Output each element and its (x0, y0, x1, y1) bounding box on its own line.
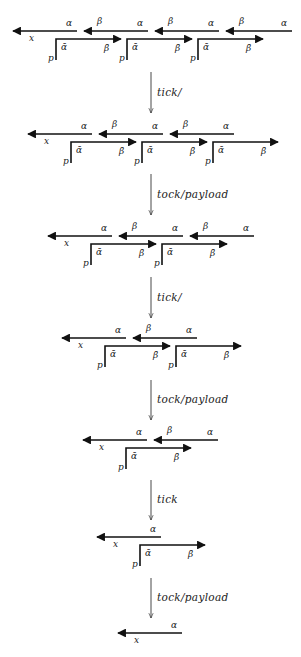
alpha-bar-label: ᾱ (145, 548, 151, 558)
alpha-label: α (137, 18, 143, 28)
beta-label: β (202, 221, 208, 231)
alpha-label: α (172, 223, 178, 233)
beta-label: β (167, 16, 173, 26)
transition-arrow: tick/ (151, 72, 183, 113)
x-label: x (78, 340, 83, 350)
alpha-label: α (152, 121, 158, 131)
transition-arrow: tick/ (151, 277, 183, 318)
x-label: x (99, 442, 104, 452)
configuration-row: αx (118, 620, 182, 645)
transition-label: tick (157, 493, 178, 505)
alpha-bar-label: ᾱ (167, 247, 173, 257)
alpha-label: α (81, 121, 87, 131)
beta-label: β (166, 425, 172, 435)
alpha-label: α (208, 18, 214, 28)
transition-arrow: tock/payload (151, 380, 229, 420)
x-label: x (64, 238, 69, 248)
beta-bar-label: β̄ (245, 43, 251, 53)
transition-label: tock/payload (157, 393, 229, 405)
p-label: p (48, 53, 54, 63)
configuration-row: αxαβαβpᾱβ̄pᾱβ̄ (48, 221, 254, 268)
alpha-label: α (115, 325, 121, 335)
alpha-bar-label: ᾱ (96, 247, 102, 257)
configuration-row: αxαβpᾱβ̄pᾱβ̄ (62, 323, 241, 370)
alpha-bar-label: ᾱ (76, 145, 82, 155)
p-label: p (154, 258, 160, 268)
x-label: x (29, 33, 34, 43)
beta-bar-label: β̄ (174, 43, 180, 53)
alpha-label: α (223, 121, 229, 131)
alpha-label: α (136, 427, 142, 437)
p-label: p (118, 462, 124, 472)
beta-label: β (96, 16, 102, 26)
alpha-bar-label: ᾱ (147, 145, 153, 155)
alpha-label: α (281, 18, 287, 28)
beta-label: β (131, 221, 137, 231)
transition-label: tick/ (157, 86, 183, 98)
alpha-label: α (171, 620, 177, 630)
p-label: p (132, 559, 138, 569)
beta-label: β (111, 119, 117, 129)
configuration-row: αxαβαβpᾱβ̄pᾱβ̄pᾱβ̄ (28, 119, 278, 166)
alpha-label: α (150, 524, 156, 534)
beta-bar-label: β̄ (189, 146, 195, 156)
beta-bar-label: β̄ (223, 350, 229, 360)
alpha-label: α (101, 223, 107, 233)
transition-arrow: tock/payload (151, 174, 229, 215)
transition-label: tock/payload (157, 591, 229, 603)
transition-arrow: tick (151, 480, 178, 520)
state-transition-diagram: αxαβαβαβpᾱβ̄pᾱβ̄pᾱβ̄αxαβαβpᾱβ̄pᾱβ̄pᾱβ̄αx… (0, 0, 301, 657)
alpha-bar-label: ᾱ (131, 451, 137, 461)
alpha-bar-label: ᾱ (110, 349, 116, 359)
x-label: x (113, 539, 118, 549)
p-label: p (134, 156, 140, 166)
alpha-bar-label: ᾱ (132, 42, 138, 52)
beta-bar-label: β̄ (152, 350, 158, 360)
p-label: p (83, 258, 89, 268)
p-label: p (190, 53, 196, 63)
alpha-bar-label: ᾱ (203, 42, 209, 52)
beta-bar-label: β̄ (173, 452, 179, 462)
alpha-label: α (207, 427, 213, 437)
beta-bar-label: β̄ (103, 43, 109, 53)
transition-label: tick/ (157, 291, 183, 303)
beta-bar-label: β̄ (138, 248, 144, 258)
beta-bar-label: β̄ (118, 146, 124, 156)
beta-bar-label: β̄ (260, 146, 266, 156)
beta-label: β (238, 16, 244, 26)
alpha-bar-label: ᾱ (218, 145, 224, 155)
alpha-bar-label: ᾱ (61, 42, 67, 52)
x-label: x (134, 635, 139, 645)
beta-label: β (145, 323, 151, 333)
alpha-label: α (66, 18, 72, 28)
x-label: x (44, 136, 49, 146)
beta-bar-label: β̄ (187, 549, 193, 559)
diagram-rows: αxαβαβαβpᾱβ̄pᾱβ̄pᾱβ̄αxαβαβpᾱβ̄pᾱβ̄pᾱβ̄αx… (13, 16, 292, 645)
transition-arrow: tock/payload (151, 578, 229, 618)
transition-label: tock/payload (157, 188, 229, 200)
beta-bar-label: β̄ (209, 248, 215, 258)
p-label: p (205, 156, 211, 166)
p-label: p (63, 156, 69, 166)
configuration-row: αxpᾱβ̄ (97, 524, 205, 569)
p-label: p (119, 53, 125, 63)
beta-label: β (182, 119, 188, 129)
alpha-label: α (186, 325, 192, 335)
alpha-label: α (243, 223, 249, 233)
configuration-row: αxαβpᾱβ̄ (83, 425, 218, 472)
p-label: p (168, 360, 174, 370)
configuration-row: αxαβαβαβpᾱβ̄pᾱβ̄pᾱβ̄ (13, 16, 292, 63)
alpha-bar-label: ᾱ (181, 349, 187, 359)
p-label: p (97, 360, 103, 370)
